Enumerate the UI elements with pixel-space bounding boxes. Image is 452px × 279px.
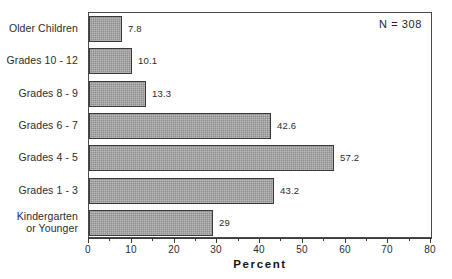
- x-axis-major-tick: [131, 238, 132, 243]
- x-axis-tick-label: 50: [296, 244, 308, 255]
- category-label: Grades 8 - 9: [0, 87, 78, 100]
- x-axis-tick-label: 80: [424, 244, 436, 255]
- bar-value-label: 7.8: [128, 23, 142, 34]
- bar: [89, 145, 334, 171]
- category-label: Grades 1 - 3: [0, 184, 78, 197]
- x-axis-major-tick: [302, 238, 303, 243]
- category-label: Kindergarten or Younger: [0, 210, 78, 235]
- x-axis-minor-tick: [238, 238, 239, 241]
- x-axis-minor-tick: [195, 238, 196, 241]
- category-axis-labels: Older ChildrenGrades 10 - 12Grades 8 - 9…: [0, 12, 82, 238]
- x-axis-tick-label: 10: [125, 244, 137, 255]
- x-axis-tick-label: 70: [381, 244, 393, 255]
- bar-value-label: 57.2: [340, 152, 359, 163]
- plot-frame: 7.810.113.342.657.243.229 N = 308: [88, 12, 432, 238]
- x-axis-minor-tick: [109, 238, 110, 241]
- bar: [89, 113, 271, 139]
- x-axis-major-tick: [88, 238, 89, 243]
- bar-value-label: 10.1: [138, 55, 157, 66]
- x-axis-major-tick: [259, 238, 260, 243]
- bar-value-label: 13.3: [152, 88, 171, 99]
- x-axis-minor-tick: [152, 238, 153, 241]
- category-label: Grades 4 - 5: [0, 151, 78, 164]
- x-axis-tick-label: 20: [168, 244, 180, 255]
- x-axis-tick-label: 0: [85, 244, 91, 255]
- x-axis-minor-tick: [409, 238, 410, 241]
- category-label: Older Children: [0, 22, 78, 35]
- x-axis-tick-label: 30: [210, 244, 222, 255]
- bar: [89, 210, 213, 236]
- x-axis-major-tick: [345, 238, 346, 243]
- bar: [89, 81, 146, 107]
- x-axis-line: [88, 238, 432, 239]
- bar: [89, 178, 274, 204]
- category-label: Grades 10 - 12: [0, 54, 78, 67]
- x-axis-minor-tick: [280, 238, 281, 241]
- x-axis-major-tick: [430, 238, 431, 243]
- x-axis-title: Percent: [88, 258, 432, 270]
- bar: [89, 16, 122, 42]
- x-axis-tick-label: 60: [339, 244, 351, 255]
- x-axis-major-tick: [216, 238, 217, 243]
- plot-area: 7.810.113.342.657.243.229: [89, 13, 431, 237]
- bar-value-label: 29: [219, 217, 230, 228]
- x-axis-major-tick: [387, 238, 388, 243]
- bar: [89, 48, 132, 74]
- x-axis-tick-label: 40: [253, 244, 265, 255]
- category-label: Grades 6 - 7: [0, 119, 78, 132]
- x-axis-minor-tick: [323, 238, 324, 241]
- bar-value-label: 42.6: [277, 120, 296, 131]
- x-axis-minor-tick: [366, 238, 367, 241]
- x-axis-major-tick: [174, 238, 175, 243]
- sample-size-annotation: N = 308: [379, 18, 422, 30]
- bar-chart: Older ChildrenGrades 10 - 12Grades 8 - 9…: [0, 0, 452, 279]
- bar-value-label: 43.2: [280, 185, 299, 196]
